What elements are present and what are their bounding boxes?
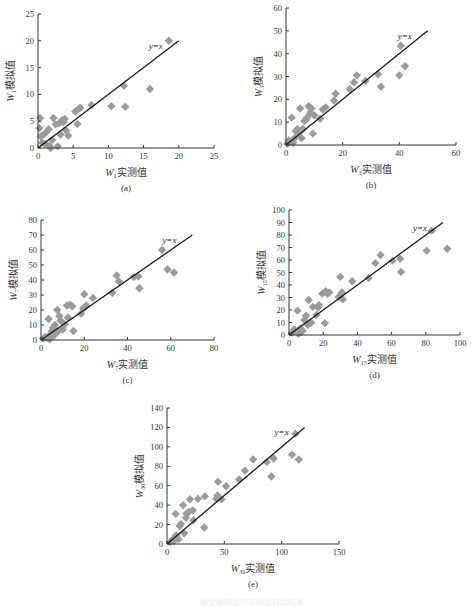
figure-caption: 模型模拟值与实测值对比结果 (200, 596, 304, 607)
y-axis-title: W30模拟值 (133, 454, 146, 498)
y-tick-label: 100 (150, 442, 163, 452)
diamond-marker (295, 455, 303, 463)
diamond-marker (214, 478, 222, 486)
diamond-marker (291, 430, 299, 438)
y-tick-label: 80 (155, 461, 164, 471)
diamond-marker (194, 495, 202, 503)
diamond-marker (189, 516, 197, 524)
x-tick-label: 0 (165, 547, 169, 557)
data-points (166, 430, 303, 547)
diamond-marker (180, 529, 188, 537)
panel-label: (e) (248, 579, 258, 589)
y-tick-label: 20 (155, 520, 164, 530)
reference-line-y-equals-x (167, 427, 305, 544)
x-tick-label: 100 (275, 547, 288, 557)
x-tick-label: 150 (333, 547, 346, 557)
diamond-marker (200, 523, 208, 531)
y-tick-label: 40 (155, 500, 164, 510)
diamond-marker (171, 510, 179, 518)
diamond-marker (267, 472, 275, 480)
diamond-marker (288, 450, 296, 458)
reference-line-label: y=x (274, 427, 289, 437)
y-tick-label: 120 (150, 422, 163, 432)
x-tick-label: 50 (220, 547, 229, 557)
diamond-marker (249, 455, 257, 463)
diamond-marker (179, 501, 187, 509)
y-tick-label: 140 (150, 403, 163, 413)
diamond-marker (201, 492, 209, 500)
x-axis-title: W30实测值 (231, 562, 275, 575)
diamond-marker (241, 466, 249, 474)
diamond-marker (186, 495, 194, 503)
y-tick-label: 0 (159, 539, 163, 549)
diamond-marker (222, 482, 230, 490)
y-tick-label: 60 (155, 481, 164, 491)
